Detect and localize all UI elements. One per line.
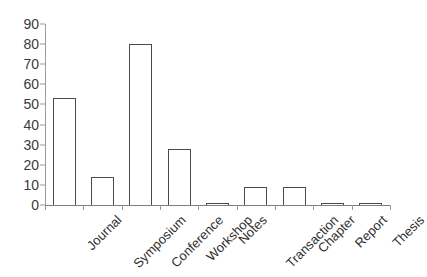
x-axis-tick-mark <box>352 205 353 210</box>
y-axis-tick-label: 60 <box>23 77 39 91</box>
plot-area <box>45 24 390 205</box>
x-axis-tick-mark <box>198 205 199 210</box>
x-axis-tick-mark <box>313 205 314 210</box>
bar <box>53 98 76 205</box>
y-axis-tick-label: 10 <box>23 178 39 192</box>
x-axis-tick-mark <box>390 205 391 210</box>
x-axis-tick-label: Thesis <box>390 213 426 249</box>
bar <box>283 187 306 205</box>
x-axis-tick-mark <box>275 205 276 210</box>
y-axis-tick-mark <box>40 184 45 185</box>
x-axis-tick-mark <box>122 205 123 210</box>
y-axis-tick-label: 50 <box>23 97 39 111</box>
y-axis-tick-label: 20 <box>23 158 39 172</box>
y-axis-tick-label: 80 <box>23 37 39 51</box>
y-axis-tick-mark <box>40 164 45 165</box>
y-axis-tick-mark <box>40 104 45 105</box>
y-axis-tick-mark <box>40 84 45 85</box>
y-axis-tick-mark <box>40 64 45 65</box>
bar <box>244 187 267 205</box>
bar <box>129 44 152 205</box>
y-axis-tick-mark <box>40 124 45 125</box>
x-axis-tick-label: Journal <box>85 213 124 252</box>
y-axis-tick-label: 30 <box>23 138 39 152</box>
x-axis-tick-labels: JournalSymposiumConferenceWorkshopNotesT… <box>0 205 396 277</box>
y-axis-tick-label: 70 <box>23 57 39 71</box>
y-axis-tick-mark <box>40 144 45 145</box>
y-axis-tick-mark <box>40 44 45 45</box>
bar <box>91 177 114 205</box>
bar <box>168 149 191 205</box>
y-axis-tick-mark <box>40 24 45 25</box>
x-axis-tick-label: Report <box>352 213 389 250</box>
x-axis-tick-mark <box>237 205 238 210</box>
x-axis-tick-mark <box>45 205 46 210</box>
y-axis-tick-label: 40 <box>23 118 39 132</box>
x-axis-tick-mark <box>160 205 161 210</box>
x-axis-tick-mark <box>83 205 84 210</box>
y-axis-tick-label: 90 <box>23 17 39 31</box>
